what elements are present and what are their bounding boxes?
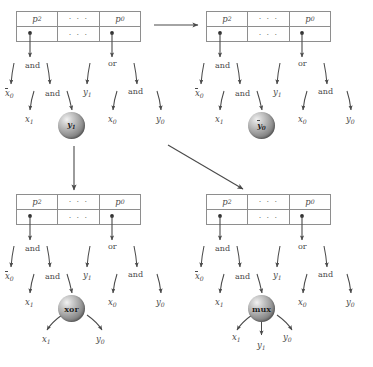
leaf-x1: x1 <box>25 298 34 308</box>
edge-or-to-and-inner-right <box>324 63 327 84</box>
leaf-x0-sub: 0 <box>303 118 307 125</box>
node-sphere-y1[interactable]: y1 <box>58 112 85 139</box>
leaf-y1-sub: 1 <box>88 274 92 281</box>
edge-and-right-to-x0 <box>113 91 117 110</box>
leaf-y0-sub: 0 <box>161 301 165 308</box>
operator-and-left: and <box>215 245 230 253</box>
edge-and-inner-to-x1 <box>220 274 224 293</box>
edge-node-to-child-x1 <box>47 315 62 330</box>
leaf-x0-bar: x0 <box>5 271 14 282</box>
operator-or-right: or <box>298 243 307 251</box>
node-sphere-y1-label: y1 <box>67 120 76 130</box>
edge-and-inner-to-x1 <box>30 91 34 110</box>
leaf-x0: x0 <box>108 115 117 125</box>
leaf-x0-bar-base: x <box>195 271 200 281</box>
edge-or-to-y1 <box>277 63 280 84</box>
edge-and-left-to-and-inner <box>47 246 50 267</box>
leaf-x0-sub: 0 <box>113 301 117 308</box>
node-sphere-mux-label: mux <box>252 305 271 313</box>
leaf-x0-bar-base: x <box>5 88 10 98</box>
node-child-y0: y0 <box>283 333 292 343</box>
leaf-y0-sub: 0 <box>351 301 355 308</box>
edge-or-to-y1 <box>277 246 280 267</box>
node-sphere-xor[interactable]: xor <box>58 295 85 322</box>
leaf-y0: y0 <box>346 115 355 125</box>
leaf-x0-bar: x0 <box>195 88 204 99</box>
edge-node-to-child-x1 <box>237 315 252 330</box>
node-child-y0-sub: 0 <box>288 336 292 343</box>
leaf-x0-bar-sub: 0 <box>10 275 14 282</box>
operator-and-inner-right: and <box>128 88 143 96</box>
node-sphere-xor-label: xor <box>64 305 78 313</box>
edge-and-left-to-and-inner <box>237 63 240 84</box>
panel-bottom-right: p2 · · · p0 · · · <box>190 183 373 367</box>
node-child-x1: x1 <box>232 333 241 343</box>
node-child-x1-sub: 1 <box>237 336 241 343</box>
leaf-x1: x1 <box>215 115 224 125</box>
leaf-x0-bar-sub: 0 <box>10 92 14 99</box>
node-child-y0: y0 <box>96 335 105 345</box>
edge-and-left-to-and-inner <box>47 63 50 84</box>
leaf-x0-bar: x0 <box>5 88 14 99</box>
operator-or-right: or <box>108 60 117 68</box>
edge-and-inner-to-node <box>67 91 72 110</box>
edge-and-left-to-x0bar <box>201 246 204 267</box>
edge-or-to-and-inner-right <box>134 63 137 84</box>
operator-and-inner-left: and <box>235 273 250 281</box>
node-child-x1-sub: 1 <box>47 338 51 345</box>
operator-and-inner-right: and <box>318 88 333 96</box>
operator-and-inner-right: and <box>318 271 333 279</box>
operator-and-inner-right: and <box>128 271 143 279</box>
operator-and-inner-left: and <box>235 90 250 98</box>
edge-and-left-to-and-inner <box>237 246 240 267</box>
edge-node-to-child-y0 <box>277 315 292 330</box>
edge-node-to-child-y0 <box>87 315 102 330</box>
node-sphere-y0-bar[interactable]: y0 <box>248 112 275 139</box>
leaf-y1-sub: 1 <box>278 274 282 281</box>
edge-or-to-and-inner-right <box>324 246 327 267</box>
leaf-x0-sub: 0 <box>303 301 307 308</box>
leaf-x0: x0 <box>298 298 307 308</box>
operator-and-left: and <box>25 62 40 70</box>
edge-or-to-y1 <box>87 63 90 84</box>
leaf-y1-sub: 1 <box>278 91 282 98</box>
leaf-x0-bar-base: x <box>195 88 200 98</box>
leaf-y0: y0 <box>156 298 165 308</box>
operator-and-left: and <box>215 62 230 70</box>
leaf-x0: x0 <box>108 298 117 308</box>
leaf-y0-sub: 0 <box>351 118 355 125</box>
leaf-x1: x1 <box>215 298 224 308</box>
figure-canvas: p2 · · · p0 · · · <box>0 0 373 367</box>
leaf-x0: x0 <box>298 115 307 125</box>
operator-and-inner-left: and <box>45 90 60 98</box>
operator-or-right: or <box>298 60 307 68</box>
edge-and-left-to-x0bar <box>201 63 204 84</box>
leaf-x1-sub: 1 <box>30 301 34 308</box>
leaf-y1: y1 <box>83 88 92 98</box>
panel-top-left: p2 · · · p0 · · · <box>0 0 183 185</box>
edge-and-right-to-y0 <box>157 274 161 293</box>
edge-and-right-to-x0 <box>303 274 307 293</box>
node-sphere-mux[interactable]: mux <box>248 295 275 322</box>
operator-and-inner-left: and <box>45 273 60 281</box>
edge-and-right-to-y0 <box>347 91 351 110</box>
edge-and-left-to-x0bar <box>11 63 14 84</box>
edge-and-inner-to-x1 <box>30 274 34 293</box>
leaf-y0-sub: 0 <box>161 118 165 125</box>
leaf-y1-sub: 1 <box>88 91 92 98</box>
leaf-x0-sub: 0 <box>113 118 117 125</box>
leaf-x0-bar-sub: 0 <box>200 275 204 282</box>
node-sphere-y0-bar-label: y0 <box>257 120 266 131</box>
leaf-y1: y1 <box>273 88 282 98</box>
node-child-y1: y1 <box>257 341 266 351</box>
node-child-y0-sub: 0 <box>101 338 105 345</box>
leaf-x1-sub: 1 <box>30 118 34 125</box>
leaf-y1: y1 <box>273 271 282 281</box>
edge-and-inner-to-node <box>257 91 262 110</box>
edge-and-inner-to-node <box>67 274 72 293</box>
node-child-x1: x1 <box>42 335 51 345</box>
edge-or-to-y1 <box>87 246 90 267</box>
leaf-x1-sub: 1 <box>220 118 224 125</box>
leaf-x0-bar-base: x <box>5 271 10 281</box>
edge-and-inner-to-x1 <box>220 91 224 110</box>
